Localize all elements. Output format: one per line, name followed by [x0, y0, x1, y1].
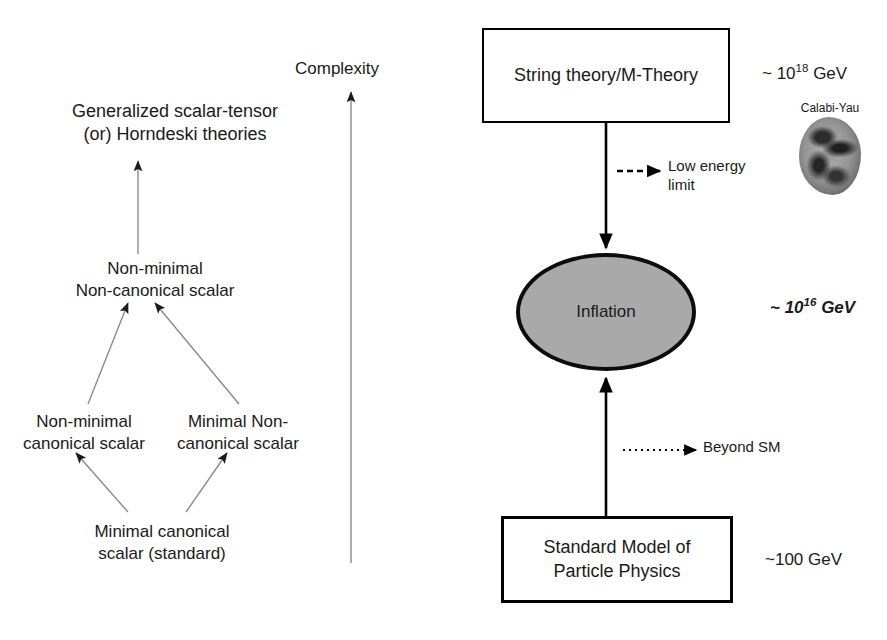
node-nonminimal-noncanonical-scalar: Non-minimal Non-canonical scalar: [55, 258, 255, 302]
annotation-low-energy-limit: Low energy limit: [668, 157, 763, 195]
scale-unit: GeV: [816, 298, 855, 317]
scale-prefix: ~100: [765, 550, 803, 569]
arrow-nonmincanon-to-nonminnoncanon: [88, 303, 128, 404]
scale-label-string-theory: ~ 1018 GeV: [762, 62, 847, 84]
scale-exponent: 16: [804, 296, 817, 308]
scale-prefix: ~ 10: [762, 64, 796, 83]
node-minimal-canonical-scalar: Minimal canonical scalar (standard): [62, 521, 262, 565]
scale-unit: GeV: [803, 550, 842, 569]
node-generalized-scalar-tensor: Generalized scalar-tensor (or) Horndeski…: [40, 100, 310, 146]
arrow-minnoncanon-to-nonminnoncanon: [155, 303, 239, 404]
node-minimal-noncanonical-scalar: Minimal Non- canonical scalar: [168, 411, 308, 455]
complexity-axis-label: Complexity: [295, 58, 405, 80]
scale-exponent: 18: [796, 62, 809, 74]
scale-unit: GeV: [808, 64, 847, 83]
node-nonminimal-canonical-scalar: Non-minimal canonical scalar: [14, 411, 154, 455]
figure-canvas: Generalized scalar-tensor (or) Horndeski…: [0, 0, 887, 640]
calabi-yau-figure: Calabi-Yau: [780, 101, 880, 195]
arrow-mincanon-to-minnoncanon: [186, 453, 227, 512]
scale-label-inflation: ~ 1016 GeV: [770, 296, 855, 318]
calabi-yau-caption: Calabi-Yau: [780, 101, 880, 115]
box-string-theory: String theory/M-Theory: [482, 28, 730, 123]
calabi-yau-manifold-image: [799, 117, 861, 195]
annotation-beyond-sm: Beyond SM: [703, 438, 823, 457]
box-standard-model: Standard Model of Particle Physics: [501, 516, 733, 603]
arrow-mincanon-to-nonmincanon: [76, 453, 128, 512]
scale-label-standard-model: ~100 GeV: [765, 548, 842, 570]
scale-prefix: ~ 10: [770, 298, 804, 317]
ellipse-inflation: Inflation: [516, 253, 696, 371]
